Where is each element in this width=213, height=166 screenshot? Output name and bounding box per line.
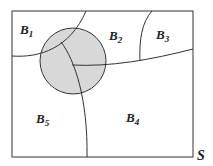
label-b1: B1 xyxy=(19,22,33,39)
event-circle xyxy=(40,28,106,94)
sample-space-rect xyxy=(12,11,193,157)
label-b4: B4 xyxy=(125,110,140,127)
label-b3: B3 xyxy=(155,27,170,44)
label-b2: B2 xyxy=(108,28,123,45)
partition-diagram: B1 B2 B3 B4 B5 S xyxy=(0,0,213,166)
label-b5: B5 xyxy=(35,111,50,128)
label-sample-space: S xyxy=(197,148,205,163)
boundary-b2-b3 xyxy=(140,11,152,61)
